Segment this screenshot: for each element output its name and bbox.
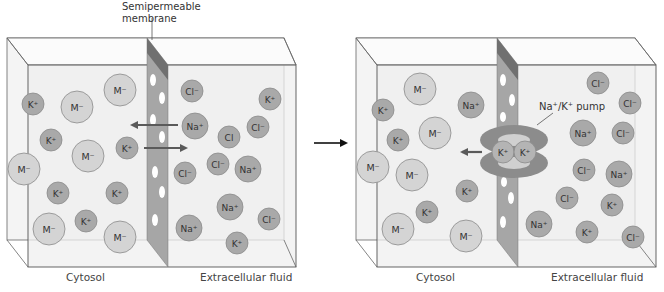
svg-text:K⁺: K⁺	[265, 95, 276, 105]
svg-text:K⁺: K⁺	[462, 187, 473, 197]
svg-text:M⁻: M⁻	[459, 231, 472, 242]
svg-text:Cl⁻: Cl⁻	[577, 166, 591, 176]
svg-text:K⁺: K⁺	[53, 189, 64, 199]
membrane-label-line1: Semipermeable	[122, 1, 201, 12]
ion-diagram: K⁺M⁻M⁻K⁺M⁻K⁺M⁻K⁺K⁺K⁺M⁻M⁻Cl⁻K⁺Na⁺ClCl⁻Cl⁻…	[0, 0, 664, 292]
ion: Cl⁻	[556, 187, 578, 209]
svg-text:Cl⁻: Cl⁻	[211, 160, 225, 170]
ion: K⁺	[40, 129, 62, 151]
ion: Na⁺	[570, 120, 596, 146]
svg-text:M⁻: M⁻	[391, 224, 404, 235]
ion: Cl⁻	[622, 226, 644, 248]
svg-text:Cl⁻: Cl⁻	[185, 87, 199, 97]
membrane-label-line2: membrane	[122, 13, 177, 24]
svg-text:K⁺: K⁺	[582, 228, 593, 238]
ion: Cl⁻	[247, 116, 269, 138]
pump-label: Na⁺/K⁺ pump	[539, 101, 605, 112]
svg-text:K⁺: K⁺	[498, 148, 509, 158]
ion: K⁺	[372, 99, 394, 121]
svg-text:Na⁺: Na⁺	[222, 203, 239, 213]
svg-text:M⁻: M⁻	[405, 170, 418, 181]
ion: M⁻	[8, 153, 40, 185]
svg-text:M⁻: M⁻	[70, 102, 83, 113]
ion: K⁺	[75, 210, 97, 232]
ion: K⁺	[576, 221, 598, 243]
ion: K⁺	[416, 201, 438, 223]
ion: M⁻	[72, 140, 104, 172]
svg-text:Cl: Cl	[225, 133, 234, 143]
ion: K⁺	[47, 182, 69, 204]
ion: Na⁺	[182, 113, 208, 139]
ion: M⁻	[104, 74, 136, 106]
ion: K⁺	[387, 129, 409, 151]
svg-text:Cl⁻: Cl⁻	[251, 123, 265, 133]
right-cytosol-caption: Cytosol	[416, 271, 455, 283]
svg-text:M⁻: M⁻	[413, 84, 426, 95]
svg-text:M⁻: M⁻	[428, 128, 441, 139]
svg-text:Na⁺: Na⁺	[240, 165, 257, 175]
svg-text:Cl⁻: Cl⁻	[262, 215, 276, 225]
svg-text:K⁺: K⁺	[28, 100, 39, 110]
ion: Cl⁻	[619, 92, 641, 114]
ion: K⁺	[22, 93, 44, 115]
ion: M⁻	[450, 220, 482, 252]
svg-text:K⁺: K⁺	[232, 239, 243, 249]
ion: M⁻	[404, 73, 436, 105]
ion: Cl⁻	[207, 153, 229, 175]
svg-text:K⁺: K⁺	[422, 208, 433, 218]
svg-text:Cl⁻: Cl⁻	[178, 169, 192, 179]
svg-text:M⁻: M⁻	[42, 224, 55, 235]
left-cytosol-caption: Cytosol	[66, 271, 105, 283]
ion: Na⁺	[458, 92, 484, 118]
ion: K⁺	[259, 88, 281, 110]
ion: K⁺	[106, 182, 128, 204]
svg-text:K⁺: K⁺	[520, 148, 531, 158]
left-ecf-caption: Extracellular fluid	[200, 271, 292, 283]
svg-text:Na⁺: Na⁺	[575, 129, 592, 139]
svg-text:K⁺: K⁺	[378, 106, 389, 116]
ion: Cl⁻	[612, 122, 634, 144]
ion: Na⁺	[606, 161, 632, 187]
svg-text:M⁻: M⁻	[113, 232, 126, 243]
ion: M⁻	[382, 213, 414, 245]
svg-text:M⁻: M⁻	[113, 85, 126, 96]
ion: Cl⁻	[174, 162, 196, 184]
svg-text:Na⁺: Na⁺	[531, 220, 548, 230]
svg-text:Cl⁻: Cl⁻	[560, 194, 574, 204]
ion: K⁺	[226, 232, 248, 254]
ion: Na⁺	[217, 194, 243, 220]
ion: M⁻	[419, 117, 451, 149]
svg-text:K⁺: K⁺	[112, 189, 123, 199]
svg-text:M⁻: M⁻	[81, 151, 94, 162]
ion: K⁺	[514, 141, 536, 163]
svg-text:Cl⁻: Cl⁻	[591, 79, 605, 89]
ion: M⁻	[104, 221, 136, 253]
ion: Cl⁻	[573, 159, 595, 181]
svg-text:K⁺: K⁺	[393, 136, 404, 146]
ion: K⁺	[116, 137, 138, 159]
ion: Cl⁻	[587, 72, 609, 94]
ion: K⁺	[456, 180, 478, 202]
ion: M⁻	[357, 151, 389, 183]
ion: Na⁺	[176, 215, 202, 241]
svg-text:K⁺: K⁺	[46, 136, 57, 146]
ion: Cl⁻	[258, 208, 280, 230]
svg-text:K⁺: K⁺	[81, 217, 92, 227]
svg-text:K⁺: K⁺	[122, 144, 133, 154]
svg-text:Cl⁻: Cl⁻	[616, 129, 630, 139]
ion: Na⁺	[526, 211, 552, 237]
svg-text:M⁻: M⁻	[366, 162, 379, 173]
ion: Na⁺	[235, 156, 261, 182]
svg-text:K⁺: K⁺	[607, 201, 618, 211]
ion: M⁻	[33, 213, 65, 245]
svg-text:Cl⁻: Cl⁻	[626, 233, 640, 243]
svg-text:M⁻: M⁻	[17, 164, 30, 175]
svg-text:Cl⁻: Cl⁻	[623, 99, 637, 109]
ion: M⁻	[396, 159, 428, 191]
svg-text:Na⁺: Na⁺	[187, 122, 204, 132]
ion: Cl	[218, 126, 240, 148]
svg-text:Na⁺: Na⁺	[181, 224, 198, 234]
ion: K⁺	[492, 141, 514, 163]
right-ecf-caption: Extracellular fluid	[551, 271, 643, 283]
ion: K⁺	[601, 194, 623, 216]
